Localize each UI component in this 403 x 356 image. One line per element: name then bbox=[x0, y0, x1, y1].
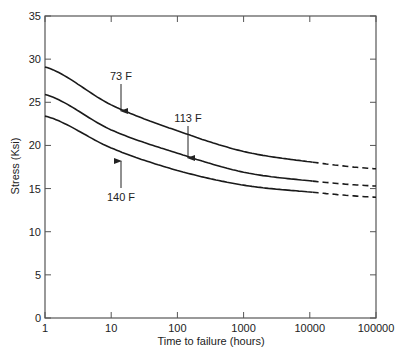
annotation-113f: 113 F bbox=[174, 112, 202, 124]
x-tick-label: 100000 bbox=[358, 322, 395, 334]
x-tick-label: 100 bbox=[168, 322, 186, 334]
y-tick-label: 0 bbox=[35, 312, 41, 324]
series-line-dashed bbox=[313, 162, 376, 169]
x-tick-label: 10000 bbox=[295, 322, 326, 334]
y-tick-label: 30 bbox=[29, 53, 41, 65]
series-lines bbox=[45, 67, 376, 197]
y-tick-label: 10 bbox=[29, 226, 41, 238]
y-tick-label: 15 bbox=[29, 183, 41, 195]
y-tick-label: 5 bbox=[35, 269, 41, 281]
x-axis-title: Time to failure (hours) bbox=[157, 335, 264, 347]
x-tick-label: 1000 bbox=[231, 322, 255, 334]
series-line-solid bbox=[45, 95, 313, 182]
x-tick-label: 1 bbox=[42, 322, 48, 334]
y-tick-label: 35 bbox=[29, 10, 41, 22]
y-axis-ticks: 05101520253035 bbox=[29, 10, 376, 324]
series-line-dashed bbox=[313, 192, 376, 197]
y-tick-label: 20 bbox=[29, 139, 41, 151]
x-tick-label: 10 bbox=[105, 322, 117, 334]
annotation-73f: 73 F bbox=[110, 70, 132, 82]
annotation-140f: 140 F bbox=[107, 191, 135, 203]
annotations: 73 F 113 F 140 F bbox=[107, 70, 202, 203]
plot-frame bbox=[45, 16, 376, 318]
y-tick-label: 25 bbox=[29, 96, 41, 108]
y-axis-title: Stress (Ksi) bbox=[9, 138, 21, 195]
stress-vs-time-chart: 05101520253035 110100100010000100000 73 … bbox=[0, 0, 403, 356]
series-line-dashed bbox=[313, 181, 376, 186]
x-axis-ticks: 110100100010000100000 bbox=[42, 16, 394, 334]
